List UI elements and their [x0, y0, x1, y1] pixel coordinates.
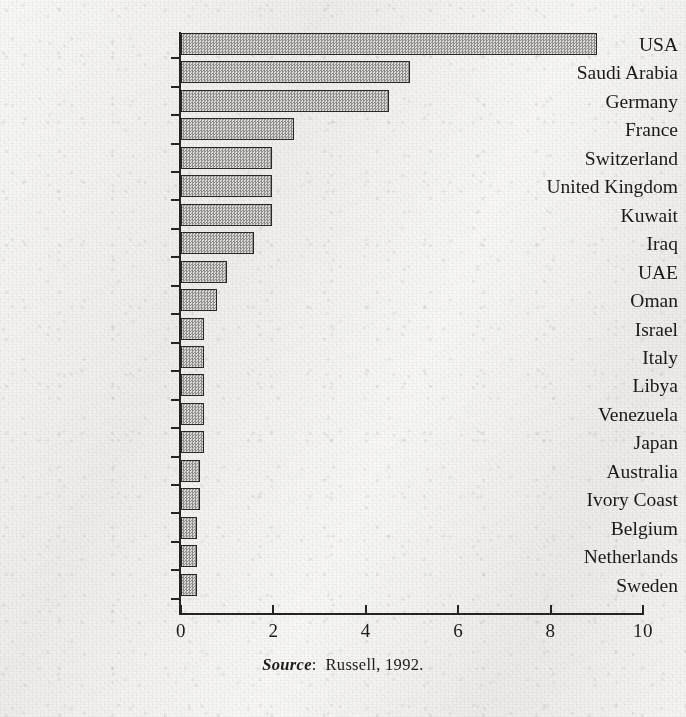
x-axis-tick-label: 4: [346, 620, 386, 642]
category-label: Kuwait: [514, 206, 686, 226]
category-label: France: [514, 120, 686, 140]
category-label: Libya: [514, 376, 686, 396]
y-axis-tick: [171, 456, 180, 458]
bar: [181, 431, 204, 453]
category-label: Oman: [514, 291, 686, 311]
x-axis-tick-label: 10: [623, 620, 663, 642]
category-label: USA: [514, 35, 686, 55]
bar: [181, 90, 389, 112]
category-label: Ivory Coast: [514, 490, 686, 510]
category-label: Japan: [514, 433, 686, 453]
x-axis-tick: [272, 605, 274, 614]
bar: [181, 374, 204, 396]
x-axis-tick: [457, 605, 459, 614]
horizontal-bar-chart: 0246810 USASaudi ArabiaGermanyFranceSwit…: [0, 0, 686, 717]
y-axis-tick: [171, 342, 180, 344]
y-axis-tick: [171, 313, 180, 315]
source-separator: :: [312, 655, 317, 674]
bar: [181, 460, 200, 482]
x-axis-tick: [180, 605, 182, 614]
y-axis-tick: [171, 598, 180, 600]
y-axis-tick: [171, 57, 180, 59]
bar: [181, 574, 197, 596]
y-axis-tick: [171, 114, 180, 116]
y-axis-tick: [171, 199, 180, 201]
x-axis-tick-label: 6: [438, 620, 478, 642]
x-axis-line: [179, 613, 644, 615]
bar: [181, 61, 410, 83]
category-label: Sweden: [514, 576, 686, 596]
bar: [181, 289, 217, 311]
y-axis-tick: [171, 171, 180, 173]
bar: [181, 118, 294, 140]
category-label: UAE: [514, 263, 686, 283]
y-axis-tick: [171, 370, 180, 372]
category-label: Saudi Arabia: [514, 63, 686, 83]
y-axis-tick: [171, 228, 180, 230]
category-label: Belgium: [514, 519, 686, 539]
x-axis-tick: [642, 605, 644, 614]
source-label: Source: [262, 655, 311, 674]
category-label: Australia: [514, 462, 686, 482]
y-axis-tick: [171, 512, 180, 514]
bar: [181, 175, 272, 197]
bar: [181, 232, 254, 254]
bar: [181, 147, 272, 169]
x-axis-tick-label: 8: [531, 620, 571, 642]
category-label: Switzerland: [514, 149, 686, 169]
bar: [181, 318, 204, 340]
y-axis-tick: [171, 399, 180, 401]
bar: [181, 488, 200, 510]
category-label: United Kingdom: [514, 177, 686, 197]
category-label: Italy: [514, 348, 686, 368]
bar: [181, 261, 227, 283]
y-axis-tick: [171, 143, 180, 145]
source-reference: Russell, 1992.: [326, 655, 424, 674]
x-axis-tick-label: 0: [161, 620, 201, 642]
category-label: Germany: [514, 92, 686, 112]
bar: [181, 517, 197, 539]
category-label: Iraq: [514, 234, 686, 254]
bar: [181, 403, 204, 425]
category-label: Venezuela: [514, 405, 686, 425]
y-axis-tick: [171, 484, 180, 486]
y-axis-tick: [171, 256, 180, 258]
y-axis-tick: [171, 285, 180, 287]
y-axis-tick: [171, 86, 180, 88]
y-axis-tick: [171, 569, 180, 571]
bar: [181, 346, 204, 368]
category-label: Israel: [514, 320, 686, 340]
x-axis-tick-label: 2: [253, 620, 293, 642]
category-label: Netherlands: [514, 547, 686, 567]
y-axis-tick: [171, 427, 180, 429]
y-axis-tick: [171, 541, 180, 543]
source-caption: Source: Russell, 1992.: [0, 655, 686, 675]
x-axis-tick: [365, 605, 367, 614]
bar: [181, 204, 272, 226]
x-axis-tick: [550, 605, 552, 614]
bar: [181, 545, 197, 567]
